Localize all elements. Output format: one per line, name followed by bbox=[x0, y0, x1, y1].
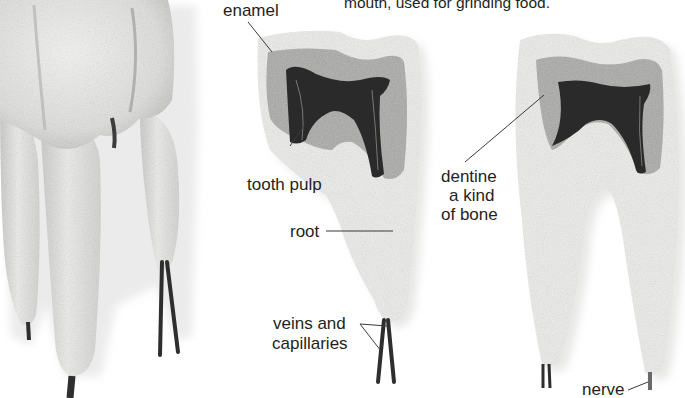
veins-label-line-1: veins and bbox=[273, 314, 346, 333]
dentine-label: dentine bbox=[441, 167, 497, 186]
cross-section-molar-right bbox=[515, 34, 685, 390]
enamel-label: enamel bbox=[223, 1, 279, 20]
nerve-leader-line bbox=[628, 382, 648, 390]
dentine-description-line-1: a kind bbox=[449, 186, 494, 205]
veins-label-line-2: capillaries bbox=[272, 334, 348, 353]
dentine-description-line-2: of bone bbox=[441, 205, 498, 224]
nerve-label: nerve bbox=[582, 380, 625, 398]
root-label: root bbox=[290, 222, 319, 241]
caption-text: mouth, used for grinding food. bbox=[344, 0, 550, 12]
tooth-pulp-label: tooth pulp bbox=[247, 175, 322, 194]
veins-leader-line-2 bbox=[360, 324, 381, 351]
tooth-diagram: mouth, used for grinding food. enamel to… bbox=[0, 0, 685, 398]
whole-molar-figure bbox=[0, 0, 198, 398]
